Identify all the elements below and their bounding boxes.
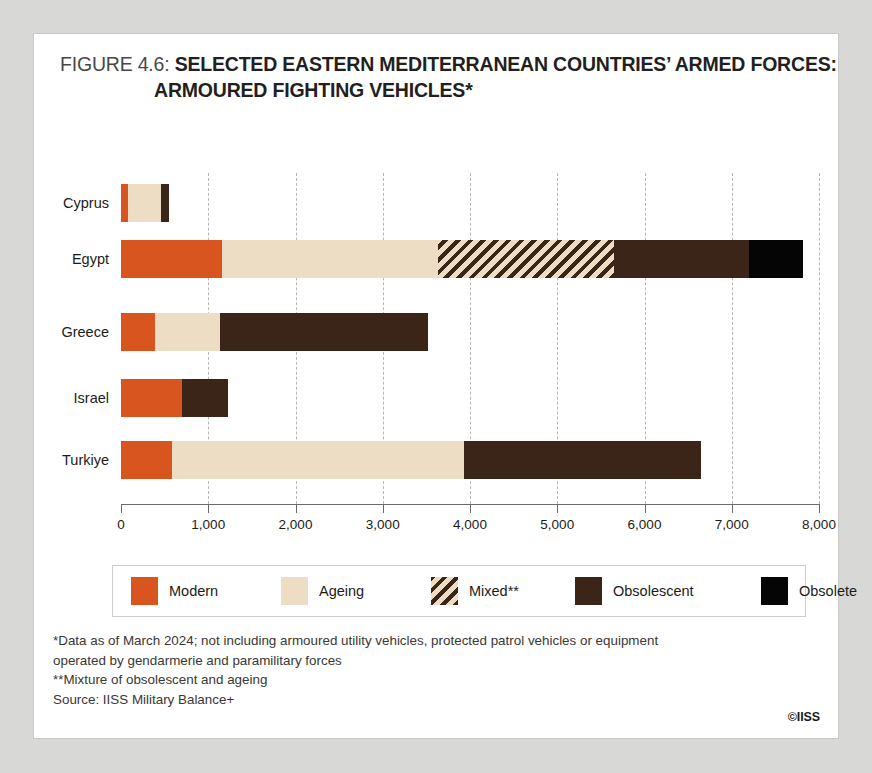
legend-swatch-ageing [281,577,308,605]
x-tick-mark [296,504,297,513]
category-label: Cyprus [63,195,109,211]
bar-segment [161,184,169,222]
x-tick-mark [732,504,733,513]
gridline [819,173,821,504]
figure-title: FIGURE 4.6: SELECTED EASTERN MEDITERRANE… [60,51,816,103]
title-text-2: ARMOURED FIGHTING VEHICLES* [60,77,816,103]
legend-item[interactable]: Modern [131,566,218,616]
x-tick-mark [819,504,820,513]
title-text-1: SELECTED EASTERN MEDITERRANEAN COUNTRIES… [175,53,837,75]
chart-legend: ModernAgeingMixed**ObsolescentObsolete [112,565,806,617]
legend-swatch-obsolescent [575,577,602,605]
legend-swatch-obsolete [761,577,788,605]
footnote-line-1: *Data as of March 2024; not including ar… [53,631,823,651]
footnote-source: Source: IISS Military Balance+ [53,690,823,710]
legend-label: Ageing [319,583,364,599]
footnote-line-2: operated by gendarmerie and paramilitary… [53,651,823,671]
bar-segment [121,313,155,351]
figure-number: FIGURE 4.6: [60,53,169,75]
footnotes: *Data as of March 2024; not including ar… [53,631,823,709]
bar-segment [155,313,220,351]
x-tick-label: 5,000 [540,517,574,532]
category-label: Egypt [72,251,109,267]
x-tick-mark [208,504,209,513]
bar-row: Egypt [121,240,803,278]
legend-swatch-modern [131,577,158,605]
x-tick-label: 1,000 [191,517,225,532]
x-tick-mark [470,504,471,513]
x-tick-label: 2,000 [279,517,313,532]
x-tick-label: 7,000 [715,517,749,532]
x-tick-mark [645,504,646,513]
bar-segment [121,379,182,417]
bar-row: Greece [121,313,428,351]
gridline [732,173,734,504]
legend-label: Mixed** [469,583,519,599]
footnote-line-3: **Mixture of obsolescent and ageing [53,670,823,690]
x-tick-mark [121,504,122,513]
bar-segment [182,379,228,417]
x-tick-label: 8,000 [802,517,836,532]
legend-item[interactable]: Mixed** [431,566,519,616]
plot-area: 01,0002,0003,0004,0005,0006,0007,0008,00… [34,165,840,525]
bar-row: Israel [121,379,228,417]
legend-label: Modern [169,583,218,599]
bar-segment [614,240,749,278]
bar-segment [749,240,803,278]
bar-segment [438,240,614,278]
legend-item[interactable]: Ageing [281,566,364,616]
plot-inner: 01,0002,0003,0004,0005,0006,0007,0008,00… [121,173,819,511]
bar-segment [121,240,222,278]
category-label: Greece [61,324,109,340]
bar-segment [222,240,438,278]
copyright-notice: ©IISS [788,710,820,724]
legend-label: Obsolete [799,583,857,599]
legend-item[interactable]: Obsolescent [575,566,694,616]
category-label: Turkiye [62,452,109,468]
x-tick-mark [557,504,558,513]
legend-swatch-mixed [431,577,458,605]
bar-segment [220,313,429,351]
legend-item[interactable]: Obsolete [761,566,857,616]
bar-segment [128,184,161,222]
x-tick-label: 3,000 [366,517,400,532]
figure-card: FIGURE 4.6: SELECTED EASTERN MEDITERRANE… [33,33,839,739]
x-tick-label: 6,000 [628,517,662,532]
bar-row: Turkiye [121,441,701,479]
bar-segment [172,441,464,479]
x-tick-mark [383,504,384,513]
title-line-1: FIGURE 4.6: SELECTED EASTERN MEDITERRANE… [60,51,816,77]
x-tick-label: 0 [117,517,125,532]
bar-segment [121,184,128,222]
category-label: Israel [74,390,109,406]
bar-row: Cyprus [121,184,169,222]
bar-segment [121,441,172,479]
x-tick-label: 4,000 [453,517,487,532]
legend-label: Obsolescent [613,583,694,599]
bar-segment [464,441,701,479]
